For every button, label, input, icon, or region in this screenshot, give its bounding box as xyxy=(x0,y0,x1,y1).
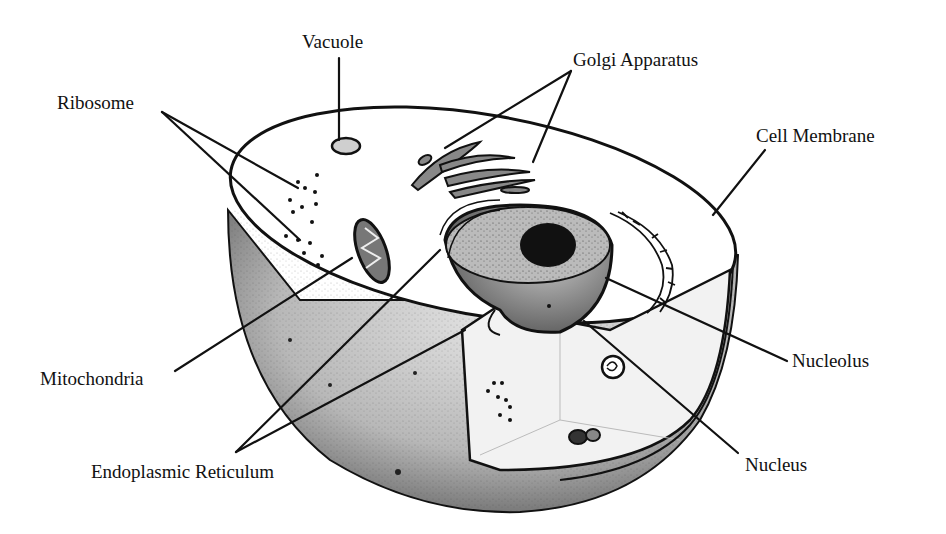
cell-diagram: Vacuole Golgi Apparatus Ribosome Cell Me… xyxy=(0,0,946,534)
nucleolus-shape xyxy=(520,223,576,267)
label-mitochondria: Mitochondria xyxy=(40,369,143,388)
label-cell-membrane: Cell Membrane xyxy=(756,126,875,145)
leader-cell-membrane xyxy=(713,150,765,215)
label-nucleolus: Nucleolus xyxy=(792,351,869,370)
label-golgi-apparatus: Golgi Apparatus xyxy=(573,50,698,69)
label-vacuole: Vacuole xyxy=(302,32,363,51)
label-ribosome: Ribosome xyxy=(57,93,134,112)
label-nucleus: Nucleus xyxy=(745,455,807,474)
vacuole-shape xyxy=(332,138,360,154)
label-endoplasmic-reticulum: Endoplasmic Reticulum xyxy=(91,462,274,481)
